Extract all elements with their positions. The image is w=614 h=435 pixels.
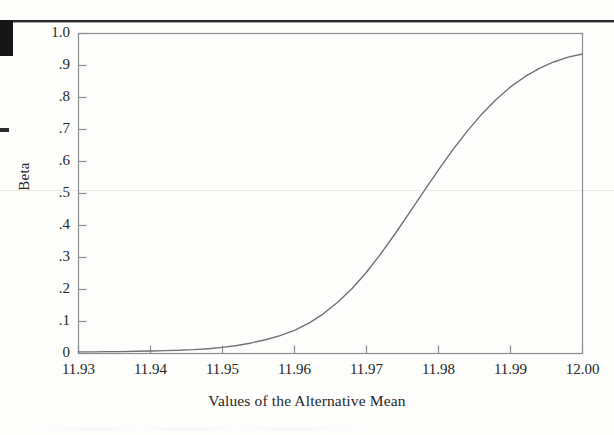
y-axis-tick-label: .2 xyxy=(28,280,70,297)
y-axis-tick-label: 1.0 xyxy=(28,24,70,41)
x-axis-tick-label: 11.97 xyxy=(332,361,402,378)
plot-border xyxy=(79,34,583,354)
y-axis-tick-label: .8 xyxy=(28,88,70,105)
plot-frame xyxy=(79,34,583,354)
beta-power-curve-chart: Beta Values of the Alternative Mean 1.0.… xyxy=(0,0,614,435)
x-axis-tick-label: 11.93 xyxy=(44,361,114,378)
x-axis-title: Values of the Alternative Mean xyxy=(0,392,614,410)
x-axis-tick-label: 11.99 xyxy=(476,361,546,378)
data-series-group xyxy=(79,54,583,352)
x-axis-tick-label: 11.94 xyxy=(116,361,186,378)
y-axis-tick-label: .6 xyxy=(28,152,70,169)
y-axis-tick-label: .1 xyxy=(28,312,70,329)
x-axis-tick-label: 11.98 xyxy=(404,361,474,378)
x-axis-tick-label: 11.96 xyxy=(260,361,330,378)
y-axis-tick-label: 0 xyxy=(28,344,70,361)
y-axis-ticks xyxy=(79,34,87,354)
y-axis-tick-label: .3 xyxy=(28,248,70,265)
x-axis-ticks xyxy=(79,346,583,354)
y-axis-tick-label: .5 xyxy=(28,184,70,201)
x-axis-tick-label: 11.95 xyxy=(188,361,258,378)
y-axis-tick-label: .7 xyxy=(28,120,70,137)
x-axis-tick-label: 12.00 xyxy=(548,361,614,378)
y-axis-tick-label: .9 xyxy=(28,56,70,73)
y-axis-tick-label: .4 xyxy=(28,216,70,233)
beta-curve-line xyxy=(79,54,583,352)
